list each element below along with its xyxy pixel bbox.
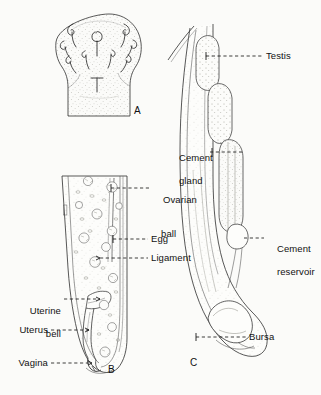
label-uterine-bell-line1: Uterine bbox=[30, 305, 61, 316]
label-uterine-bell-line2: bell bbox=[46, 328, 61, 339]
label-uterine-bell: Uterine bell bbox=[0, 293, 61, 351]
label-uterus: Uterus bbox=[0, 324, 48, 336]
label-testis: Testis bbox=[266, 50, 291, 62]
label-vagina: Vagina bbox=[0, 357, 48, 369]
label-cement-reservoir-line2: reservoir bbox=[277, 266, 315, 277]
anatomy-figure: Testis Cement gland Cement reservoir Bur… bbox=[0, 0, 321, 395]
label-ovarian-ball: Ovarian ball bbox=[152, 182, 197, 263]
label-cement-reservoir: Cement reservoir bbox=[266, 231, 315, 289]
label-egg: Egg bbox=[151, 233, 168, 245]
label-ovarian-ball-line1: Ovarian bbox=[163, 194, 197, 205]
panel-letter-a: A bbox=[134, 105, 141, 116]
label-cement-reservoir-line1: Cement bbox=[277, 243, 311, 254]
panel-letter-c: C bbox=[190, 357, 197, 368]
label-cement-gland-line1: Cement bbox=[179, 152, 213, 163]
panel-letter-b: B bbox=[108, 364, 115, 375]
label-ligament: Ligament bbox=[151, 252, 191, 264]
panel-a-proboscis bbox=[56, 14, 142, 116]
panel-b-female-tract bbox=[62, 176, 127, 373]
label-bursa: Bursa bbox=[249, 331, 274, 343]
